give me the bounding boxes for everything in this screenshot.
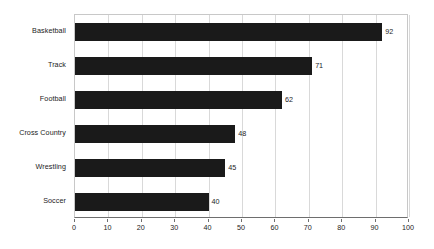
category-label: Cross Country (19, 129, 66, 136)
bar-row[interactable]: 40 (75, 193, 407, 211)
gridline (409, 15, 410, 217)
x-tick-label: 100 (402, 224, 414, 231)
bar-value-label: 62 (285, 96, 293, 103)
bar[interactable] (75, 159, 225, 177)
category-label: Track (48, 61, 66, 68)
bar-row[interactable]: 45 (75, 159, 407, 177)
x-tick-label: 50 (237, 224, 245, 231)
x-tick-label: 20 (137, 224, 145, 231)
bar-value-label: 71 (315, 62, 323, 69)
x-tick-label: 70 (304, 224, 312, 231)
bar-value-label: 92 (385, 28, 393, 35)
x-tick-mark (74, 219, 75, 222)
x-tick-mark (308, 219, 309, 222)
x-tick-mark (174, 219, 175, 222)
x-tick-mark (241, 219, 242, 222)
bar[interactable] (75, 23, 382, 41)
x-tick-mark (375, 219, 376, 222)
category-label: Soccer (43, 197, 66, 204)
bar-chart: BasketballTrackFootballCross CountryWres… (0, 0, 434, 249)
x-tick-label: 30 (170, 224, 178, 231)
x-tick-label: 40 (204, 224, 212, 231)
bar[interactable] (75, 91, 282, 109)
category-axis-labels: BasketballTrackFootballCross CountryWres… (0, 14, 70, 218)
x-tick-mark (141, 219, 142, 222)
category-label: Basketball (32, 27, 66, 34)
category-label: Football (40, 95, 66, 102)
bar-row[interactable]: 71 (75, 57, 407, 75)
bar[interactable] (75, 57, 312, 75)
x-axis: 0102030405060708090100 (74, 219, 408, 241)
bar-value-label: 40 (212, 198, 220, 205)
bar[interactable] (75, 125, 235, 143)
x-tick-label: 90 (371, 224, 379, 231)
x-tick-label: 10 (103, 224, 111, 231)
x-tick-mark (107, 219, 108, 222)
x-tick-label: 80 (337, 224, 345, 231)
bar[interactable] (75, 193, 209, 211)
x-tick-label: 60 (270, 224, 278, 231)
x-tick-mark (408, 219, 409, 222)
bar-value-label: 48 (238, 130, 246, 137)
bar-row[interactable]: 62 (75, 91, 407, 109)
bar-value-label: 45 (228, 164, 236, 171)
x-tick-mark (208, 219, 209, 222)
plot-area: 927162484540 (74, 14, 408, 218)
x-tick-label: 0 (72, 224, 76, 231)
x-tick-mark (341, 219, 342, 222)
bar-row[interactable]: 48 (75, 125, 407, 143)
category-label: Wrestling (36, 163, 66, 170)
bar-series: 927162484540 (75, 15, 407, 217)
x-tick-mark (274, 219, 275, 222)
bar-row[interactable]: 92 (75, 23, 407, 41)
